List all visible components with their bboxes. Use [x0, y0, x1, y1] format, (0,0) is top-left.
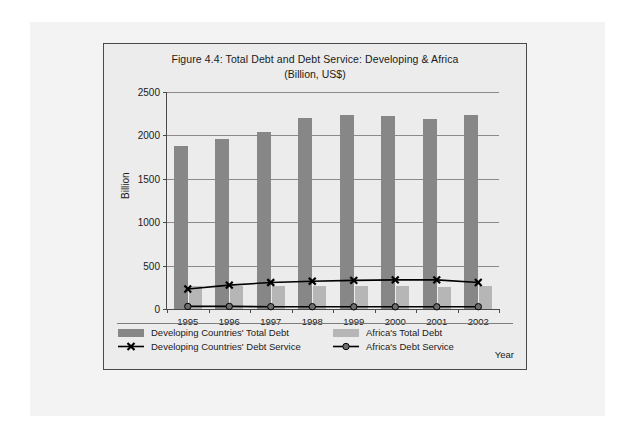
y-tick-label: 500	[143, 260, 160, 271]
legend-developing-total-debt[interactable]: Developing Countries' Total Debt	[118, 327, 289, 338]
page-canvas: Figure 4.4: Total Debt and Debt Service:…	[0, 0, 623, 438]
y-tick-label: 1000	[138, 217, 160, 228]
y-axis-title: Billion	[120, 172, 131, 199]
plot-area: 05001000150020002500 1995199619971998199…	[166, 92, 499, 310]
x-tick-mark	[250, 309, 251, 313]
y-tick-label: 1500	[138, 173, 160, 184]
x-tick-mark	[333, 309, 334, 313]
legend-africa-debt-service[interactable]: Africa's Debt Service	[333, 341, 454, 352]
legend-line-dot-icon	[333, 342, 359, 351]
legend-label: Developing Countries' Debt Service	[151, 341, 301, 352]
chart-container: Figure 4.4: Total Debt and Debt Service:…	[103, 43, 527, 370]
y-tick-label: 2000	[138, 130, 160, 141]
marker-dot	[475, 304, 481, 310]
chart-title: Figure 4.4: Total Debt and Debt Service:…	[104, 52, 526, 67]
y-tick-label: 2500	[138, 87, 160, 98]
x-tick-mark	[209, 309, 210, 313]
marker-dot	[268, 304, 274, 310]
x-tick-mark	[458, 309, 459, 313]
marker-dot	[226, 303, 232, 309]
x-tick-mark	[416, 309, 417, 313]
marker-dot	[351, 304, 357, 310]
x-tick-mark	[292, 309, 293, 313]
marker-dot	[185, 303, 191, 309]
marker-dot	[434, 304, 440, 310]
legend-swatch-dark-icon	[118, 329, 144, 337]
line-series-layer	[167, 92, 499, 309]
legend-africa-total-debt[interactable]: Africa's Total Debt	[333, 327, 442, 338]
marker-dot	[309, 304, 315, 310]
chart-subtitle: (Billion, US$)	[104, 67, 526, 82]
legend-developing-debt-service[interactable]: Developing Countries' Debt Service	[118, 341, 301, 352]
x-tick-mark	[167, 309, 168, 313]
legend-swatch-light-icon	[333, 329, 359, 337]
legend-label: Africa's Total Debt	[366, 327, 442, 338]
x-tick-mark	[375, 309, 376, 313]
chart-legend: Developing Countries' Total DebtDevelopi…	[117, 323, 513, 361]
marker-dot	[392, 304, 398, 310]
y-tick-label: 0	[154, 304, 160, 315]
legend-label: Developing Countries' Total Debt	[151, 327, 289, 338]
x-tick-mark	[499, 309, 500, 313]
legend-label: Africa's Debt Service	[366, 341, 454, 352]
legend-line-x-icon	[118, 342, 144, 351]
